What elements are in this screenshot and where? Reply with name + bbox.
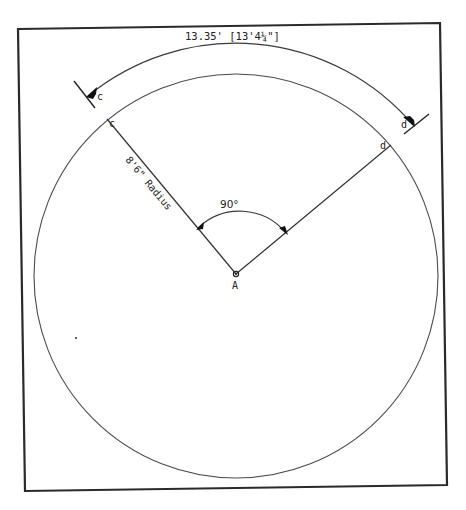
point-label-d-inner: d <box>380 140 386 151</box>
angle-arrowhead-left-icon <box>196 222 204 230</box>
point-label-c-outer: c <box>97 91 103 102</box>
arc-length-dimension <box>88 43 413 125</box>
arrowhead-c-icon <box>86 87 97 99</box>
border-frame <box>18 23 447 491</box>
scan-speck <box>75 337 77 339</box>
center-point-fill <box>235 273 237 275</box>
radius-label: 8'6" Radius <box>123 154 174 212</box>
center-label: A <box>232 280 238 291</box>
angle-label: 90° <box>220 198 239 210</box>
arc-length-label: 13.35' [13'4¼"] <box>185 30 280 42</box>
point-label-d-outer: d <box>401 119 407 130</box>
radius-line-d <box>236 145 391 274</box>
radius-line-c <box>107 119 236 274</box>
angle-arc <box>198 211 286 233</box>
circle-arc-diagram: 13.35' [13'4¼"] c d c d 8'6" Radius 90° … <box>0 0 466 510</box>
point-label-c-inner: c <box>109 118 115 129</box>
